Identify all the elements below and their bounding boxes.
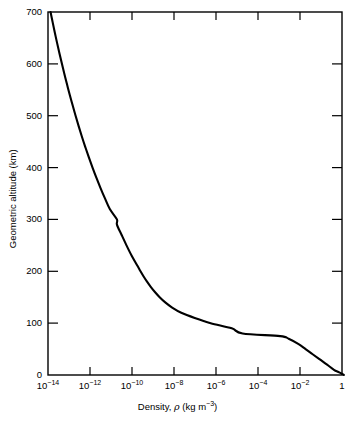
- y-axis-title: Geometric altitude (km): [8, 134, 18, 264]
- y-tick-label-0: 0: [8, 370, 42, 380]
- x-tick-base: 10: [37, 380, 48, 391]
- x-tick-exp: −2: [301, 379, 309, 386]
- x-tick-exp: −4: [259, 379, 267, 386]
- x-tick-base: 1: [339, 380, 344, 391]
- x-tick-label-1e-12: 10−12: [79, 381, 101, 391]
- chart-plot-area: [0, 0, 355, 421]
- x-tick-label-1e-10: 10−10: [121, 381, 143, 391]
- y-tick-label-200: 200: [8, 267, 42, 277]
- y-tick-label-500: 500: [8, 111, 42, 121]
- x-tick-exp: −10: [131, 379, 143, 386]
- x-tick-base: 10: [249, 380, 260, 391]
- x-tick-label-1e-4: 10−4: [249, 381, 268, 391]
- y-tick-label-700: 700: [8, 7, 42, 17]
- x-axis-title-text: Density,: [138, 401, 174, 412]
- x-tick-base: 10: [291, 380, 302, 391]
- x-tick-base: 10: [165, 380, 176, 391]
- x-tick-label-1: 1: [339, 381, 344, 391]
- x-tick-base: 10: [121, 380, 132, 391]
- density-altitude-chart: 700 600 500 400 300 200 100 0 10−14 10−1…: [0, 0, 355, 421]
- y-tick-label-100: 100: [8, 318, 42, 328]
- y-tick-label-600: 600: [8, 59, 42, 69]
- x-tick-label-1e-8: 10−8: [165, 381, 184, 391]
- x-tick-label-1e-6: 10−6: [207, 381, 226, 391]
- x-tick-exp: −12: [89, 379, 101, 386]
- x-tick-exp: −6: [217, 379, 225, 386]
- x-axis-units-pre: (kg m: [180, 401, 206, 412]
- x-tick-base: 10: [79, 380, 90, 391]
- x-tick-label-1e-2: 10−2: [291, 381, 310, 391]
- plot-frame: [48, 12, 342, 375]
- x-axis-units-post: ): [214, 401, 217, 412]
- x-tick-base: 10: [207, 380, 218, 391]
- x-tick-exp: −8: [175, 379, 183, 386]
- x-axis-title: Density, ρ (kg m−3): [0, 402, 355, 412]
- x-tick-label-1e-14: 10−14: [37, 381, 59, 391]
- x-tick-exp: −14: [47, 379, 59, 386]
- x-axis-units-exp: −3: [206, 400, 214, 407]
